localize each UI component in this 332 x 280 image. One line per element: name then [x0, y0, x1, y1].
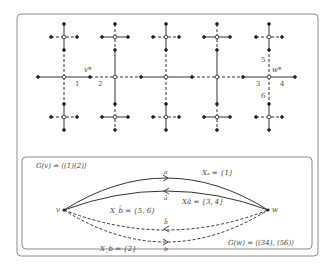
tree-node: [268, 129, 271, 132]
tree-node: [76, 36, 79, 39]
tree-node: [114, 23, 117, 26]
tree-node: [203, 36, 206, 39]
set-label-bbar: X_b̄ = {5, 6}: [109, 205, 156, 215]
tree-node-hollow: [267, 35, 271, 39]
edge-a-label: a: [164, 168, 168, 175]
tree-node: [76, 116, 79, 119]
tree-node: [127, 36, 130, 39]
tree-node: [255, 116, 258, 119]
tree-node-hollow: [267, 115, 271, 119]
tree-node-hollow: [215, 75, 219, 79]
tree-node: [114, 49, 117, 52]
set-label-b: X_b = {2}: [99, 245, 137, 253]
tree-node-hollow: [215, 35, 219, 39]
tree-node: [114, 129, 117, 132]
edge-label-1: 1: [75, 80, 79, 88]
tree-node: [281, 36, 284, 39]
tree-node: [216, 129, 219, 132]
tree-node: [294, 76, 297, 79]
tree-node-hollow: [267, 75, 271, 79]
tree-node-hollow: [113, 75, 117, 79]
quotient-graph: [62, 175, 269, 245]
tree-node: [165, 103, 168, 106]
tree-node: [63, 129, 66, 132]
tree-node: [165, 49, 168, 52]
g-v-label: G(v) = ⟨(1)(2)⟩: [36, 162, 87, 170]
tree-node-hollow: [62, 75, 66, 79]
tree-node: [101, 116, 104, 119]
tree-node: [63, 103, 66, 106]
tree-node: [178, 116, 181, 119]
set-label-abar: Xā = {3, 4}: [181, 198, 224, 206]
tree-node: [268, 23, 271, 26]
tree-node-hollow: [113, 115, 117, 119]
tree-node: [101, 36, 104, 39]
vertex-v-label: v: [56, 206, 60, 214]
tree-node-hollow: [113, 35, 117, 39]
tree-node: [127, 116, 130, 119]
tree-node: [50, 116, 53, 119]
diagram: v* 1 2 w* 3 4 5 6 G(v) = ⟨(1)(2)⟩ G(w) =…: [0, 0, 332, 280]
tree-node: [140, 76, 143, 79]
tree-node: [268, 103, 271, 106]
tree-node-hollow: [62, 115, 66, 119]
tree-node: [216, 103, 219, 106]
tree-node-hollow: [215, 115, 219, 119]
tree-node: [178, 36, 181, 39]
edge-label-6: 6: [261, 92, 266, 100]
arrow-bbar: [164, 226, 169, 232]
tree-node: [50, 36, 53, 39]
tree-node-hollow: [62, 35, 66, 39]
edge-label-4: 4: [280, 80, 285, 88]
tree-node: [165, 129, 168, 132]
tree-node-hollow: [164, 115, 168, 119]
vertex-v: [62, 208, 65, 211]
tree-node: [229, 116, 232, 119]
tree-node: [281, 116, 284, 119]
tree-node: [268, 49, 271, 52]
edge-b: [64, 210, 268, 242]
tree-graph: [37, 23, 297, 132]
g-w-label: G(w) = ⟨(34), (56)⟩: [228, 239, 294, 247]
edge-b-label: b: [164, 245, 168, 252]
v-star-label: v*: [84, 66, 92, 74]
edge-bbar-label: b̄: [164, 218, 168, 225]
tree-node: [191, 76, 194, 79]
tree-node: [203, 116, 206, 119]
tree-node: [216, 23, 219, 26]
tree-node: [255, 36, 258, 39]
tree-node: [165, 23, 168, 26]
tree-node-hollow: [164, 75, 168, 79]
tree-node: [114, 103, 117, 106]
tree-node: [152, 116, 155, 119]
tree-node: [152, 36, 155, 39]
tree-node: [63, 23, 66, 26]
tree-node-hollow: [164, 35, 168, 39]
tree-node: [37, 76, 40, 79]
edge-label-3: 3: [256, 80, 260, 88]
tree-node: [63, 49, 66, 52]
tree-node: [242, 76, 245, 79]
vertex-w: [266, 208, 269, 211]
tree-node: [229, 36, 232, 39]
vertex-w-label: w: [272, 206, 278, 214]
edge-label-5: 5: [261, 56, 265, 64]
tree-node: [89, 76, 92, 79]
set-label-a: Xₐ = {1}: [201, 169, 233, 177]
tree-node: [216, 49, 219, 52]
edge-label-2: 2: [98, 80, 102, 88]
edge-abar-label: ā: [164, 194, 168, 201]
w-star-label: w*: [272, 66, 282, 74]
